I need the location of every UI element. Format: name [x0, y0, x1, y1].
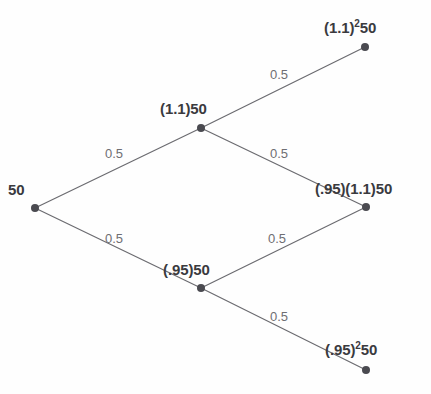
node-value-label-down: (.95)50: [163, 262, 210, 277]
nodes-group: [31, 43, 370, 374]
node-label-base: (.95): [325, 341, 355, 358]
tree-node-dot-up-down: [362, 203, 370, 211]
node-value-label-root: 50: [8, 182, 25, 197]
tree-edge-down-updown: [201, 207, 366, 288]
tree-node-dot-up: [197, 124, 205, 132]
node-label-tail: 50: [360, 19, 377, 36]
node-label-base: (1.1): [324, 19, 354, 36]
edge-probability-label-root-down: 0.5: [105, 232, 123, 245]
edge-probability-label-down-updown: 0.5: [268, 232, 286, 245]
node-value-label-up: (1.1)50: [160, 101, 207, 116]
binomial-tree-diagram: 50(1.1)50(.95)50(1.1)250(.95)(1.1)50(.95…: [0, 0, 431, 394]
edge-probability-label-up-updown: 0.5: [270, 147, 288, 160]
tree-node-dot-root: [31, 204, 39, 212]
tree-edge-up-upup: [201, 47, 365, 128]
edge-probability-label-up-upup: 0.5: [270, 68, 288, 81]
tree-edge-root-up: [35, 128, 201, 208]
node-value-label-down-down: (.95)250: [325, 342, 377, 357]
node-value-label-up-down: (.95)(1.1)50: [315, 181, 392, 196]
tree-graphics: [0, 0, 431, 394]
node-value-label-up-up: (1.1)250: [324, 20, 376, 35]
tree-node-dot-down-down: [362, 366, 370, 374]
edges-group: [35, 47, 366, 370]
edge-probability-label-root-up: 0.5: [105, 147, 123, 160]
tree-node-dot-up-up: [361, 43, 369, 51]
edge-probability-label-down-downdown: 0.5: [270, 310, 288, 323]
tree-node-dot-down: [197, 284, 205, 292]
node-label-tail: 50: [361, 341, 378, 358]
